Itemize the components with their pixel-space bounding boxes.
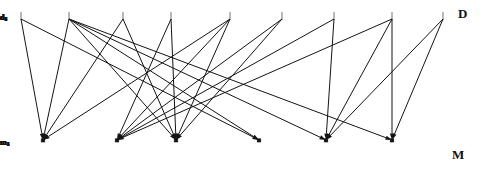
graph-edge (331, 19, 443, 135)
node-letter: m (0, 138, 7, 147)
bottom-node-marker (324, 139, 328, 142)
graph-edge (44, 19, 69, 134)
set-label-bottom: M (452, 148, 464, 161)
graph-edge (180, 19, 282, 135)
graph-edge (395, 19, 443, 134)
graph-edge (329, 19, 392, 134)
graph-edge (123, 19, 334, 137)
node-label-d9: d9 (0, 14, 7, 22)
set-label-top: D (458, 7, 467, 20)
bottom-node-marker (390, 139, 394, 142)
bottom-node-marker (115, 139, 119, 142)
bipartite-graph-figure: d1d2d3d4d5d6d7d8d9m1m2m3m4m5m6 D M (0, 0, 485, 169)
graph-edge (120, 19, 171, 134)
graph-edge (48, 19, 230, 136)
graph-canvas (0, 0, 485, 169)
edges-group (21, 19, 443, 140)
node-subscript: 9 (4, 16, 7, 22)
bottom-node-marker (41, 139, 45, 142)
bottom-node-marker (257, 139, 261, 142)
graph-edge (21, 19, 42, 134)
graph-edge (121, 19, 230, 135)
bottom-node-marker (174, 139, 178, 142)
node-subscript: 6 (7, 141, 10, 147)
node-label-m6: m6 (0, 139, 9, 147)
